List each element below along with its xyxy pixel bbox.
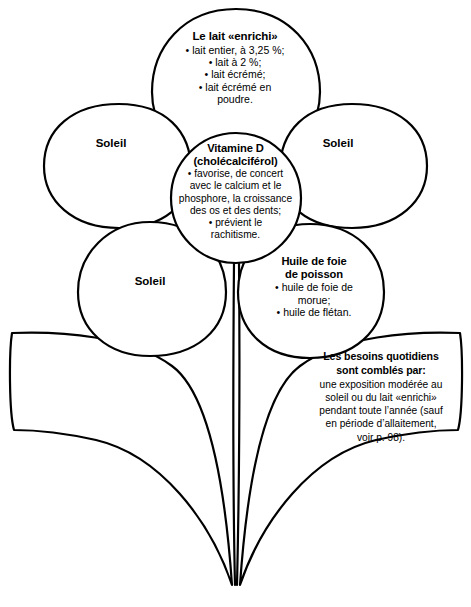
milk-item-4: poudre.	[168, 93, 302, 105]
needs-body-0: une exposition modérée au	[305, 378, 457, 391]
center-item-4: • prévient le	[163, 217, 308, 229]
center-vitamin-d-text: Vitamine D (cholécalciférol) • favorise,…	[163, 142, 308, 241]
center-item-0: • favorise, de concert	[163, 168, 308, 180]
sun-bottom-label: Soleil	[115, 275, 185, 287]
fish-item-1: morue;	[258, 294, 370, 306]
daily-needs-note: Les besoins quotidiens sont comblés par:…	[305, 350, 457, 444]
center-item-2: phosphore, la croissance	[163, 193, 308, 205]
leaf-left-shape	[10, 333, 232, 585]
sun-left-label: Soleil	[76, 137, 146, 149]
center-item-5: rachitisme.	[163, 229, 308, 241]
fish-heading-line1: Huile de foie	[258, 255, 370, 268]
needs-heading-line1: Les besoins quotidiens	[305, 350, 457, 364]
stem-right-line	[237, 262, 239, 585]
milk-petal-text: Le lait «enrichi» • lait entier, à 3,25 …	[168, 30, 302, 105]
milk-item-0: • lait entier, à 3,25 %;	[168, 44, 302, 56]
fish-heading-line2: de poisson	[258, 268, 370, 281]
center-heading-line1: Vitamine D	[163, 142, 308, 155]
needs-body-3: en période d’allaitement,	[305, 417, 457, 430]
vitamin-d-flower-diagram: Le lait «enrichi» • lait entier, à 3,25 …	[0, 0, 471, 607]
center-item-1: avec le calcium et le	[163, 180, 308, 192]
milk-item-2: • lait écrémé;	[168, 68, 302, 80]
sun-right-label: Soleil	[303, 137, 373, 149]
stem-left-line	[233, 262, 235, 585]
needs-body-2: pendant toute l’année (sauf	[305, 404, 457, 417]
needs-body-4: voir p. 98).	[305, 431, 457, 444]
fish-oil-petal-text: Huile de foie de poisson • huile de foie…	[258, 255, 370, 319]
center-heading-line2: (cholécalciférol)	[163, 155, 308, 168]
fish-item-0: • huile de foie de	[258, 281, 370, 293]
needs-heading-line2: sont comblés par:	[305, 364, 457, 378]
milk-item-1: • lait à 2 %;	[168, 56, 302, 68]
fish-item-2: • huile de flétan.	[258, 306, 370, 318]
milk-heading: Le lait «enrichi»	[168, 30, 302, 44]
center-item-3: des os et des dents;	[163, 205, 308, 217]
milk-item-3: • lait écrémé en	[168, 81, 302, 93]
needs-body-1: soleil ou du lait «enrichi»	[305, 391, 457, 404]
